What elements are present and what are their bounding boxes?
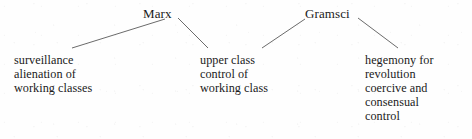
leaf-line: coercive and xyxy=(365,81,434,95)
connector-marx-to-surveillance xyxy=(72,19,165,48)
leaf-line: consensual xyxy=(365,95,434,109)
connector-marx-to-upper-class xyxy=(178,18,208,48)
leaf-node-upper-class-control: upper class control of working class xyxy=(200,53,268,95)
leaf-node-surveillance-alienation: surveillance alienation of working class… xyxy=(14,53,92,95)
root-node-marx: Marx xyxy=(143,7,172,20)
concept-diagram: Marx Gramsci surveillance alienation of … xyxy=(0,0,472,139)
connector-gramsci-to-hegemony xyxy=(358,18,398,48)
leaf-line: control of xyxy=(200,67,268,81)
leaf-line: revolution xyxy=(365,67,434,81)
leaf-node-hegemony-revolution: hegemony for revolution coercive and con… xyxy=(365,53,434,123)
leaf-line: working classes xyxy=(14,81,92,95)
leaf-line: control xyxy=(365,109,434,123)
leaf-line: surveillance xyxy=(14,53,92,67)
leaf-line: upper class xyxy=(200,53,268,67)
leaf-line: working class xyxy=(200,81,268,95)
leaf-line: hegemony for xyxy=(365,53,434,67)
root-node-gramsci: Gramsci xyxy=(305,7,350,20)
leaf-line: alienation of xyxy=(14,67,92,81)
connector-gramsci-to-upper-class xyxy=(262,19,305,48)
